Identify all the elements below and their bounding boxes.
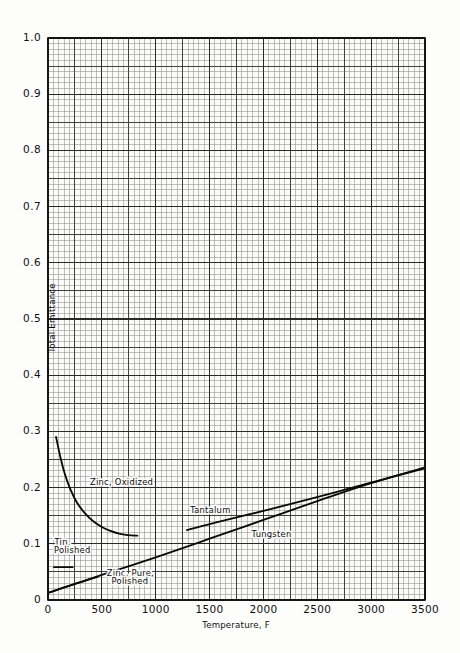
y-tick-label: 0.3 [23, 424, 41, 436]
x-tick-label: 1500 [196, 603, 224, 615]
x-tick-label: 500 [91, 603, 112, 615]
y-axis-title: Total Emittance [47, 283, 57, 353]
x-tick-label: 2500 [303, 603, 331, 615]
series-annotation-zinc-oxidized: Zinc, Oxidized [90, 477, 153, 487]
grid-major [48, 38, 425, 600]
series-annotation-tantalum: Tantalum [189, 505, 230, 515]
x-tick-label: 1000 [142, 603, 170, 615]
y-tick-label: 0.5 [23, 312, 41, 324]
y-tick-label: 0.2 [23, 481, 41, 493]
series-annotation-polished: Polished [112, 576, 149, 586]
x-tick-label: 2000 [249, 603, 277, 615]
x-tick-label: 3000 [357, 603, 385, 615]
y-tick-label: 0.7 [23, 200, 41, 212]
y-tick-label: 0.9 [23, 87, 41, 99]
emittance-temperature-chart: Zinc, OxidizedZinc, OxidizedTin,Tin,Poli… [0, 0, 460, 653]
chart-figure: Zinc, OxidizedZinc, OxidizedTin,Tin,Poli… [0, 0, 460, 653]
y-tick-label: 0.4 [23, 368, 41, 380]
y-tick-label: 1.0 [23, 31, 41, 43]
x-axis-title: Temperature, F [201, 620, 270, 630]
x-tick-label: 0 [45, 603, 52, 615]
series-annotation-polished: Polished [54, 545, 91, 555]
series-annotation-tungsten: Tungsten [251, 529, 292, 539]
y-tick-label: 0.1 [23, 537, 41, 549]
y-tick-label: 0.6 [23, 256, 41, 268]
y-tick-label: 0.8 [23, 143, 41, 155]
x-tick-label: 3500 [411, 603, 439, 615]
y-tick-label: 0 [34, 593, 41, 605]
